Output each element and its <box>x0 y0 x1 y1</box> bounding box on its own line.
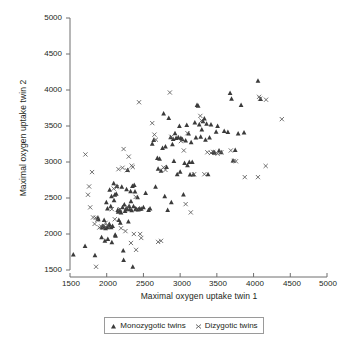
data-point-triangle <box>209 122 214 127</box>
data-point-triangle <box>129 199 134 204</box>
data-point-cross <box>87 184 91 188</box>
data-point-cross <box>137 100 141 104</box>
cross-marker-icon <box>195 322 202 330</box>
data-point-triangle <box>256 78 261 83</box>
data-point-triangle <box>181 192 186 197</box>
data-point-cross <box>168 90 172 94</box>
data-point-triangle <box>236 131 241 136</box>
legend-entry-monozygotic: Monozygotic twins <box>110 321 185 330</box>
data-point-cross <box>129 241 133 245</box>
data-point-triangle <box>182 161 187 166</box>
data-point-cross <box>280 117 284 121</box>
data-point-triangle <box>190 160 195 165</box>
data-point-triangle <box>222 129 227 134</box>
data-point-triangle <box>126 219 131 224</box>
data-point-triangle <box>215 124 220 129</box>
data-point-triangle <box>153 184 158 189</box>
legend-label-dizygotic: Dizygotic twins <box>205 321 258 330</box>
data-point-triangle <box>194 135 199 140</box>
data-point-cross <box>134 248 138 252</box>
data-point-cross <box>132 232 136 236</box>
data-point-triangle <box>121 257 126 262</box>
data-point-cross <box>83 152 87 156</box>
triangle-marker-icon <box>110 322 117 330</box>
data-point-cross <box>119 226 123 230</box>
data-point-triangle <box>99 235 104 240</box>
legend-entry-dizygotic: Dizygotic twins <box>195 321 258 330</box>
data-point-triangle <box>173 131 178 136</box>
data-point-triangle <box>112 198 117 203</box>
data-point-cross <box>88 205 92 209</box>
data-point-cross <box>113 217 117 221</box>
data-point-triangle <box>214 129 219 134</box>
data-point-triangle <box>199 127 204 132</box>
data-point-triangle <box>178 169 183 174</box>
data-point-triangle <box>119 184 124 189</box>
data-point-triangle <box>229 96 234 101</box>
data-point-cross <box>182 148 186 152</box>
data-point-cross <box>184 202 188 206</box>
data-point-cross <box>150 121 154 125</box>
data-point-triangle <box>111 181 116 186</box>
data-point-cross <box>264 164 268 168</box>
data-point-triangle <box>133 189 138 194</box>
series-dizygotic-twins <box>83 90 284 268</box>
data-point-cross <box>92 222 96 226</box>
data-point-cross <box>198 114 202 118</box>
data-point-cross <box>205 150 209 154</box>
data-point-triangle <box>225 130 230 135</box>
data-point-triangle <box>163 144 168 149</box>
data-point-triangle <box>228 90 233 95</box>
series-monozygotic-twins <box>71 78 263 269</box>
data-point-triangle <box>93 253 98 257</box>
data-point-cross <box>189 210 193 214</box>
data-point-triangle <box>184 122 189 127</box>
data-point-cross <box>120 166 124 170</box>
data-point-cross <box>122 147 126 151</box>
data-point-triangle <box>169 200 174 205</box>
data-point-triangle <box>177 124 182 129</box>
data-point-cross <box>123 229 127 233</box>
data-point-triangle <box>128 189 133 194</box>
y-axis-spine <box>66 18 70 270</box>
data-point-triangle <box>233 148 238 153</box>
data-point-cross <box>131 165 135 169</box>
data-point-triangle <box>105 237 110 242</box>
data-point-triangle <box>170 142 175 147</box>
data-point-cross <box>229 148 233 152</box>
data-point-cross <box>116 167 120 171</box>
data-point-triangle <box>141 205 146 210</box>
data-point-triangle <box>143 190 148 195</box>
data-point-triangle <box>71 252 76 256</box>
x-axis-spine <box>70 273 327 277</box>
data-point-triangle <box>104 200 109 205</box>
data-point-triangle <box>161 111 166 116</box>
data-point-cross <box>139 236 143 240</box>
data-point-triangle <box>198 134 203 139</box>
data-point-triangle <box>192 120 197 125</box>
data-point-cross <box>152 133 156 137</box>
data-point-triangle <box>83 243 88 248</box>
data-point-triangle <box>239 103 244 108</box>
data-point-cross <box>127 155 131 159</box>
data-point-triangle <box>107 187 112 192</box>
data-point-triangle <box>172 158 177 163</box>
data-point-triangle <box>109 240 114 245</box>
legend: Monozygotic twins Dizygotic twins <box>104 317 264 334</box>
legend-label-monozygotic: Monozygotic twins <box>120 321 185 330</box>
data-point-triangle <box>204 121 209 126</box>
data-point-triangle <box>130 264 135 269</box>
plot-canvas <box>0 0 347 345</box>
data-point-triangle <box>166 116 171 121</box>
data-point-triangle <box>242 130 247 135</box>
data-point-cross <box>243 175 247 179</box>
data-point-cross <box>264 98 268 102</box>
scatter-plot-figure: Maximal oxygen uptake twin 2 5000 4500 4… <box>0 0 347 345</box>
data-point-cross <box>90 170 94 174</box>
data-point-triangle <box>124 187 129 192</box>
data-point-cross <box>94 265 98 269</box>
data-point-triangle <box>189 140 194 145</box>
data-point-triangle <box>165 207 170 212</box>
data-point-cross <box>138 232 142 236</box>
data-point-triangle <box>156 166 161 171</box>
